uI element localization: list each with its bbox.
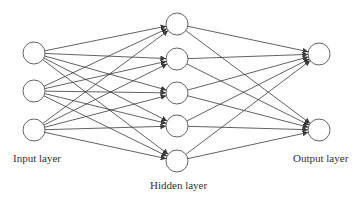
hidden-layer-label: Hidden layer <box>150 179 207 191</box>
hidden-node <box>166 150 188 172</box>
connection-arrow <box>188 132 309 158</box>
connection-arrow <box>186 31 310 124</box>
connection-arrow <box>188 54 308 58</box>
connection-arrow <box>45 26 166 51</box>
network-graph <box>0 0 364 200</box>
input-node <box>23 119 45 141</box>
input-node <box>23 80 45 102</box>
input-node <box>23 42 45 64</box>
hidden-node <box>166 115 188 137</box>
connection-arrow <box>43 31 168 124</box>
connection-arrow <box>43 60 168 155</box>
connection-arrow <box>45 91 166 93</box>
connection-arrow <box>45 132 166 158</box>
output-node <box>308 43 330 65</box>
output-layer-label: Output layer <box>293 152 348 164</box>
connection-arrow <box>44 96 167 156</box>
hidden-node <box>166 82 188 104</box>
connection-arrow <box>188 26 308 51</box>
hidden-node <box>166 48 188 70</box>
hidden-node <box>166 13 188 35</box>
neural-network-diagram: Input layer Hidden layer Output layer <box>0 0 364 200</box>
connection-arrow <box>45 126 166 129</box>
connection-arrow <box>188 126 308 129</box>
input-layer-label: Input layer <box>13 152 61 164</box>
output-node <box>308 119 330 141</box>
connection-arrow <box>186 61 310 155</box>
